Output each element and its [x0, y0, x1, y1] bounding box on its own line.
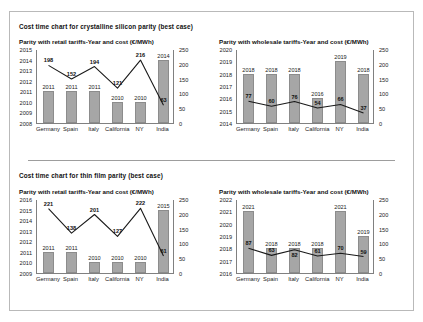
line-value-label: 222 — [129, 200, 152, 206]
x-axis-categories: GermanySpainItalyCaliforniaNYIndia — [36, 276, 174, 286]
plot-area: 201820182018201620192018776076546637 — [236, 50, 374, 124]
x-tick-label: Italy — [82, 276, 105, 282]
y-tick-left: 2022 — [214, 197, 234, 204]
y-tick-left: 2020 — [214, 222, 234, 229]
y-axis-right: 250200150100500 — [376, 47, 396, 127]
y-tick-left: 2019 — [214, 234, 234, 241]
y-tick-left: 2014 — [214, 121, 234, 128]
y-tick-left: 2018 — [214, 72, 234, 79]
x-tick-label: Germany — [36, 276, 59, 282]
y-tick-left: 2019 — [214, 59, 234, 66]
x-tick-label: NY — [328, 126, 351, 132]
line-series — [237, 200, 375, 274]
line-value-label: 60 — [260, 98, 283, 104]
y-tick-left: 2014 — [14, 218, 34, 225]
line-value-label: 54 — [306, 100, 329, 106]
y-axis-right: 250200150100500 — [176, 197, 196, 277]
x-tick-label: Spain — [259, 276, 282, 282]
y-tick-right: 200 — [376, 62, 396, 69]
x-axis-categories: GermanySpainItalyCaliforniaNYIndia — [36, 126, 174, 136]
line-value-label: 198 — [37, 57, 60, 63]
line-value-label: 194 — [83, 59, 106, 65]
line-value-label: 37 — [352, 105, 375, 111]
chart-subtitle-retail-csi: Parity with retail tariffs-Year and cost… — [19, 38, 154, 45]
y-tick-left: 2009 — [14, 110, 34, 117]
y-tick-right: 250 — [176, 197, 196, 204]
chart-retail-crystalline: 2015201420132012201120102009200825020015… — [14, 50, 199, 142]
x-tick-label: Italy — [82, 126, 105, 132]
section-divider — [28, 160, 395, 161]
line-value-label: 87 — [237, 240, 260, 246]
y-tick-right: 150 — [376, 227, 396, 234]
y-tick-right: 100 — [376, 241, 396, 248]
y-tick-left: 2011 — [14, 89, 34, 96]
y-tick-right: 100 — [176, 91, 196, 98]
x-tick-label: NY — [128, 126, 151, 132]
y-tick-left: 2017 — [214, 84, 234, 91]
x-tick-label: Germany — [36, 126, 59, 132]
line-value-label: 63 — [152, 97, 175, 103]
y-tick-left: 2016 — [214, 271, 234, 278]
y-tick-left: 2015 — [14, 47, 34, 54]
plot-area: 2011201120112010201020141981521941212166… — [36, 50, 174, 124]
x-tick-label: India — [351, 126, 374, 132]
line-value-label: 63 — [260, 247, 283, 253]
x-tick-label: Germany — [236, 276, 259, 282]
x-tick-label: California — [105, 276, 128, 282]
y-tick-right: 150 — [176, 227, 196, 234]
x-tick-label: Spain — [259, 126, 282, 132]
x-tick-label: California — [305, 276, 328, 282]
x-tick-label: NY — [328, 276, 351, 282]
line-value-label: 121 — [106, 80, 129, 86]
y-tick-left: 2009 — [14, 271, 34, 278]
x-tick-label: Italy — [282, 126, 305, 132]
screenshot-page: Cost time chart for crystalline silicon … — [0, 0, 423, 322]
y-axis-left: 20152014201320122011201020092008 — [14, 47, 34, 127]
line-value-label: 61 — [152, 248, 175, 254]
line-value-label: 70 — [329, 245, 352, 251]
y-tick-right: 200 — [176, 62, 196, 69]
x-tick-label: Spain — [59, 126, 82, 132]
line-value-label: 221 — [37, 201, 60, 207]
y-tick-left: 2020 — [214, 47, 234, 54]
line-value-label: 59 — [352, 249, 375, 255]
chart-subtitle-retail-tf: Parity with retail tariffs-Year and cost… — [19, 188, 154, 195]
y-tick-right: 200 — [376, 212, 396, 219]
y-tick-left: 2014 — [14, 58, 34, 65]
y-tick-left: 2015 — [14, 208, 34, 215]
plot-area: 2011201120102010201020152211382011272226… — [36, 200, 174, 274]
y-tick-left: 2011 — [14, 250, 34, 257]
chart-retail-thinfilm: 2016201520142013201220112010200925020015… — [14, 200, 199, 292]
y-tick-left: 2013 — [14, 68, 34, 75]
y-tick-right: 50 — [176, 106, 196, 113]
line-value-label: 216 — [129, 52, 152, 58]
y-axis-left: 2022202120202019201820172016 — [214, 197, 234, 277]
line-series — [37, 200, 175, 274]
y-tick-right: 250 — [376, 47, 396, 54]
y-tick-right: 50 — [376, 106, 396, 113]
x-tick-label: California — [305, 126, 328, 132]
x-tick-label: India — [151, 276, 174, 282]
chart-wholesale-crystalline: 2020201920182017201620152014250200150100… — [214, 50, 399, 142]
y-tick-left: 2013 — [14, 229, 34, 236]
content-frame: Cost time chart for crystalline silicon … — [9, 11, 414, 311]
line-series — [237, 50, 375, 124]
chart-subtitle-wholesale-csi: Parity with wholesale tariffs-Year and c… — [219, 38, 369, 45]
y-tick-left: 2010 — [14, 260, 34, 267]
y-axis-right: 250200150100500 — [376, 197, 396, 277]
line-value-label: 127 — [106, 228, 129, 234]
y-tick-right: 100 — [376, 91, 396, 98]
y-tick-left: 2017 — [214, 259, 234, 266]
section-title-crystalline: Cost time chart for crystalline silicon … — [19, 23, 193, 30]
line-value-label: 76 — [283, 94, 306, 100]
line-value-label: 138 — [60, 225, 83, 231]
y-tick-right: 0 — [376, 121, 396, 128]
section-title-thin-film: Cost time chart for thin film parity (be… — [19, 172, 163, 179]
x-tick-label: Italy — [282, 276, 305, 282]
line-value-label: 152 — [60, 71, 83, 77]
chart-subtitle-wholesale-tf: Parity with wholesale tariffs-Year and c… — [219, 188, 369, 195]
y-tick-left: 2018 — [214, 246, 234, 253]
x-tick-label: India — [151, 126, 174, 132]
y-tick-right: 200 — [176, 212, 196, 219]
x-axis-categories: GermanySpainItalyCaliforniaNYIndia — [236, 276, 374, 286]
